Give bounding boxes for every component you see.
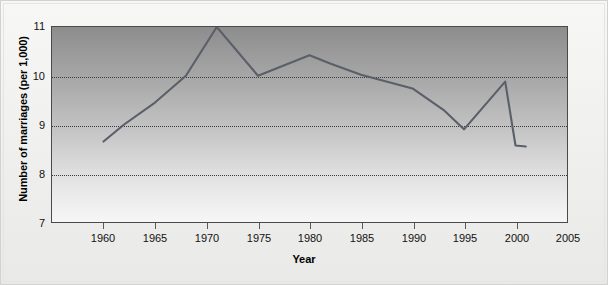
series-line-marriage-rate bbox=[52, 27, 567, 222]
x-tick-2000: 2000 bbox=[505, 232, 529, 244]
plot-area bbox=[51, 26, 568, 223]
y-axis-label: Number of marriages (per 1,000) bbox=[17, 14, 29, 224]
x-tickmark-1980 bbox=[310, 223, 311, 229]
x-axis-label: Year bbox=[1, 253, 607, 265]
x-tick-1990: 1990 bbox=[402, 232, 426, 244]
x-tick-1980: 1980 bbox=[298, 232, 322, 244]
x-tick-1995: 1995 bbox=[453, 232, 477, 244]
x-tickmark-1965 bbox=[155, 223, 156, 229]
x-tickmark-1960 bbox=[103, 223, 104, 229]
x-tickmark-1995 bbox=[465, 223, 466, 229]
chart-figure: 11 10 9 8 7 Number of marriages (per 1,0… bbox=[0, 0, 608, 285]
x-tickmark-1975 bbox=[259, 223, 260, 229]
x-tick-2005: 2005 bbox=[556, 232, 580, 244]
x-tick-1985: 1985 bbox=[350, 232, 374, 244]
x-tickmark-1990 bbox=[414, 223, 415, 229]
x-tickmark-1985 bbox=[362, 223, 363, 229]
x-tickmark-2000 bbox=[517, 223, 518, 229]
x-tick-1975: 1975 bbox=[247, 232, 271, 244]
x-tickmark-1970 bbox=[207, 223, 208, 229]
x-tick-1965: 1965 bbox=[143, 232, 167, 244]
x-tick-1970: 1970 bbox=[195, 232, 219, 244]
x-tick-1960: 1960 bbox=[91, 232, 115, 244]
